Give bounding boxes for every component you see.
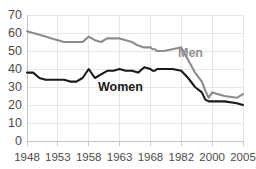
chart-container: 010203040506070 194819531958196319681982…: [0, 0, 256, 169]
y-axis-tick-label: 30: [8, 80, 22, 94]
y-axis-tick-label: 0: [15, 134, 22, 148]
axis-lines: [27, 15, 243, 141]
x-axis-tick-labels: 19481953195819631968198220002005: [14, 151, 256, 163]
y-axis-tick-label: 60: [8, 26, 22, 40]
y-axis-tick-labels: 010203040506070: [8, 8, 22, 148]
y-axis-tick-label: 20: [8, 98, 22, 112]
series-label-men: Men: [178, 46, 203, 60]
x-axis-tick-marks: [27, 141, 243, 146]
horizontal-gridlines: [27, 15, 243, 141]
y-axis-tick-label: 70: [8, 8, 22, 22]
x-axis-tick-label: 1958: [76, 151, 102, 163]
y-axis-tick-label: 10: [8, 116, 22, 130]
x-axis-tick-label: 1963: [107, 151, 133, 163]
x-axis-tick-label: 1953: [45, 151, 71, 163]
x-axis-tick-label: 2000: [199, 151, 225, 163]
vertical-gridlines: [27, 15, 243, 141]
x-axis-tick-label: 1968: [138, 151, 164, 163]
series-label-women: Women: [98, 80, 143, 94]
y-axis-tick-label: 50: [8, 44, 22, 58]
line-chart: 010203040506070 194819531958196319681982…: [0, 0, 256, 169]
x-axis-tick-label: 1982: [168, 151, 194, 163]
x-axis-tick-label: 1948: [14, 151, 40, 163]
x-axis-tick-label: 2005: [230, 151, 256, 163]
y-axis-tick-label: 40: [8, 62, 22, 76]
